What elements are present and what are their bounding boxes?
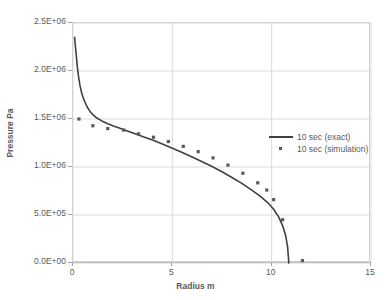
y-tick-label: 0.0E+00 (4, 257, 66, 266)
legend-marker-swatch-icon (268, 143, 294, 155)
x-tick-label: 15 (355, 268, 385, 277)
y-tick-mark (68, 118, 72, 119)
y-tick-mark (68, 214, 72, 215)
legend-label: 10 sec (simulation) (297, 143, 368, 155)
x-tick-mark (370, 262, 371, 266)
data-point-marker (106, 127, 109, 130)
data-point-marker (152, 136, 155, 139)
x-tick-mark (271, 262, 272, 266)
y-axis-title: Pressure Pa (5, 93, 15, 173)
legend-entry[interactable]: 10 sec (exact) (268, 131, 368, 143)
data-point-marker (77, 117, 80, 120)
x-tick-label: 10 (256, 268, 286, 277)
y-tick-label: 5.0E+05 (4, 209, 66, 218)
data-point-marker (211, 156, 214, 159)
chart-legend: 10 sec (exact)10 sec (simulation) (268, 131, 368, 155)
y-tick-mark (68, 166, 72, 167)
data-point-marker (256, 181, 259, 184)
x-tick-mark (72, 262, 73, 266)
data-point-marker (167, 140, 170, 143)
data-point-marker (301, 259, 304, 262)
y-tick-mark (68, 70, 72, 71)
legend-label: 10 sec (exact) (297, 131, 350, 143)
data-point-marker (137, 132, 140, 135)
x-tick-label: 5 (156, 268, 186, 277)
data-point-marker (272, 198, 275, 201)
data-point-marker (226, 163, 229, 166)
x-tick-label: 0 (57, 268, 87, 277)
y-tick-label: 2.5E+06 (4, 17, 66, 26)
data-point-marker (281, 218, 284, 221)
legend-entry[interactable]: 10 sec (simulation) (268, 143, 368, 155)
y-tick-mark (68, 22, 72, 23)
x-axis-title: Radius m (0, 281, 391, 291)
data-point-marker (265, 188, 268, 191)
data-point-marker (91, 124, 94, 127)
data-point-marker (241, 172, 244, 175)
data-point-marker (182, 145, 185, 148)
data-point-marker (197, 150, 200, 153)
y-tick-label: 2.0E+06 (4, 65, 66, 74)
x-tick-mark (171, 262, 172, 266)
chart-container: 0.0E+005.0E+051.0E+061.5E+062.0E+062.5E+… (0, 0, 391, 300)
legend-line-swatch-icon (268, 131, 294, 143)
data-point-marker (122, 128, 125, 131)
